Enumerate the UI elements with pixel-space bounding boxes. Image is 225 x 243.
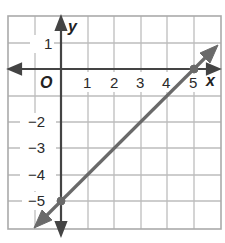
y-tick-neg2: −2 (28, 113, 45, 130)
y-tick-neg3: −3 (28, 139, 45, 156)
y-axis-label: y (67, 18, 78, 35)
x-tick-5: 5 (189, 74, 197, 91)
x-tick-1: 1 (83, 74, 91, 91)
y-axis-up-arrow (56, 17, 66, 30)
point-x-intercept (190, 65, 198, 73)
y-tick-1: 1 (44, 35, 52, 52)
y-tick-neg4: −4 (28, 166, 45, 183)
x-axis-left-arrow (9, 64, 21, 74)
x-tick-3: 3 (136, 74, 144, 91)
x-tick-2: 2 (110, 74, 118, 91)
y-tick-neg5: −5 (28, 192, 45, 209)
coordinate-graph: y x O 1 2 3 4 5 1 −2 −3 −4 −5 (0, 0, 225, 243)
origin-label: O (40, 74, 53, 91)
y-axis-down-arrow (56, 222, 66, 235)
point-y-intercept (57, 197, 65, 205)
x-tick-4: 4 (162, 74, 170, 91)
x-axis-label: x (205, 72, 216, 89)
